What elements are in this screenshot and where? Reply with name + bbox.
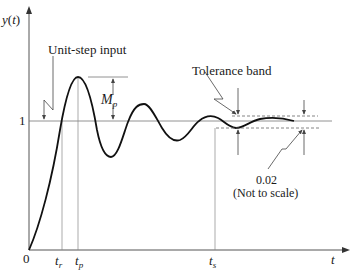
overshoot-label: Mp bbox=[100, 92, 118, 109]
tolerance-note-label: (Not to scale) bbox=[233, 186, 298, 200]
tolerance-band-label: Tolerance band bbox=[192, 63, 272, 78]
level-one-label: 1 bbox=[19, 113, 26, 128]
unit-step-input-label: Unit-step input bbox=[48, 42, 127, 57]
tolerance-band-leader bbox=[205, 72, 236, 114]
step-response-diagram: y(t) 1 0 t tr tp ts Unit-step input Mp T… bbox=[0, 0, 352, 275]
settling-time-label: ts bbox=[209, 253, 217, 270]
origin-label: 0 bbox=[23, 251, 30, 266]
x-axis-label: t bbox=[331, 252, 335, 267]
unit-step-leader bbox=[44, 56, 53, 119]
rise-time-label: tr bbox=[55, 253, 63, 270]
tolerance-value-leader bbox=[268, 130, 302, 169]
y-axis-label: y(t) bbox=[0, 12, 20, 27]
tolerance-value-label: 0.02 bbox=[256, 173, 277, 187]
response-curve bbox=[29, 77, 294, 250]
peak-time-label: tp bbox=[75, 253, 84, 270]
